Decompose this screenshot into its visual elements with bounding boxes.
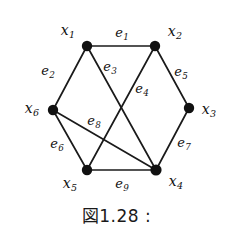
vertex-label-x1: x1: [61, 23, 75, 39]
edge-label-e2: e2: [41, 64, 55, 79]
vertex-label-x6: x6: [25, 101, 39, 117]
graph-vertex-x2: [150, 41, 160, 51]
edge-label-e4: e4: [135, 82, 149, 97]
vertex-label-x4: x4: [169, 174, 183, 190]
edge-label-e7: e7: [177, 136, 191, 151]
edge-label-e5: e5: [174, 65, 188, 80]
graph-vertex-x3: [184, 103, 194, 113]
graph-edge-e2: [53, 46, 87, 110]
edge-label-e6: e6: [50, 137, 64, 152]
graph-vertex-x6: [48, 105, 58, 115]
edge-layer: [53, 46, 189, 170]
vertex-label-x3: x3: [202, 102, 216, 118]
edge-label-e1: e1: [115, 26, 129, 41]
vertex-label-x2: x2: [168, 24, 182, 40]
graph-vertex-x5: [82, 165, 92, 175]
figure-caption: 図1.28 :: [0, 202, 233, 227]
graph-vertex-x4: [150, 164, 161, 175]
vertex-label-x5: x5: [63, 176, 77, 192]
edge-label-e3: e3: [103, 60, 117, 75]
edge-label-e9: e9: [115, 177, 129, 192]
graph-vertex-x1: [82, 41, 92, 51]
graph-edge-e8: [53, 110, 156, 170]
figure-container: x1x2x3x4x5x6e1e2e3e4e5e6e7e8e9 図1.28 :: [0, 0, 233, 239]
edge-label-e8: e8: [87, 114, 101, 129]
